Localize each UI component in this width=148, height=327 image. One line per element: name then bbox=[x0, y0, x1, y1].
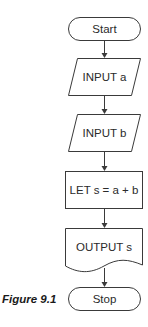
node-input-b-label: INPUT b bbox=[83, 127, 127, 139]
figure-caption: Figure 9.1 bbox=[2, 293, 56, 305]
node-start-label: Start bbox=[92, 23, 117, 35]
node-stop-label: Stop bbox=[93, 293, 117, 305]
flowchart-diagram: Start INPUT a INPUT b LET s = a + b OUTP… bbox=[0, 0, 148, 327]
connector-start-to-input-a bbox=[102, 41, 108, 58]
node-input-b: INPUT b bbox=[69, 115, 141, 152]
node-stop: Stop bbox=[69, 288, 141, 311]
connector-output-to-stop bbox=[102, 268, 108, 287]
node-output-label: OUTPUT s bbox=[76, 241, 132, 253]
connector-process-to-output bbox=[102, 209, 108, 228]
node-process: LET s = a + b bbox=[66, 172, 143, 209]
node-process-label: LET s = a + b bbox=[70, 184, 139, 196]
connector-input-b-to-process bbox=[102, 152, 108, 171]
node-output: OUTPUT s bbox=[66, 229, 143, 272]
connector-input-a-to-input-b bbox=[102, 96, 108, 114]
node-input-a: INPUT a bbox=[69, 59, 141, 96]
node-input-a-label: INPUT a bbox=[83, 71, 127, 83]
node-start: Start bbox=[69, 18, 141, 41]
